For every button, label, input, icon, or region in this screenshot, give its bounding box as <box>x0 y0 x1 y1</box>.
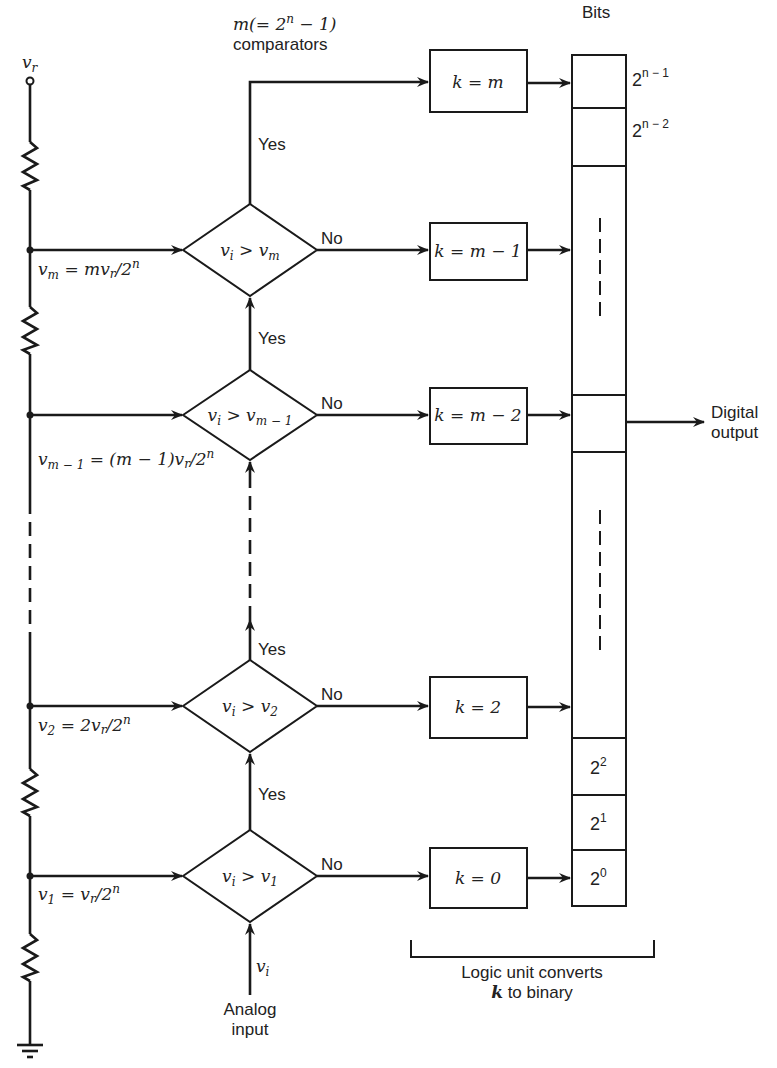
resistor-icon <box>23 307 37 354</box>
svg-text:k = m: k = m <box>452 72 503 92</box>
bits-label: Bits <box>582 3 610 22</box>
ground-icon <box>17 1045 43 1057</box>
comparator-v1-label: vi > v1 <box>222 866 278 889</box>
node-taps <box>30 250 182 876</box>
resistor-icon <box>23 934 37 981</box>
svg-text:input: input <box>232 1020 269 1039</box>
bit-label-2: 22 <box>590 755 607 778</box>
bit-label-msb: 2n − 1 <box>632 66 669 90</box>
no-label: No <box>321 394 343 413</box>
no-label: No <box>321 229 343 248</box>
svg-text:output: output <box>711 423 759 442</box>
comparators-label: comparators <box>233 35 327 54</box>
svg-text:Analog: Analog <box>224 1000 277 1019</box>
svg-text:k to binary: k to binary <box>491 982 573 1002</box>
node-label-v1: v1 = vr/2n <box>38 882 120 907</box>
comparator-vm1-label: vi > vm − 1 <box>208 405 293 428</box>
reference-label: vr <box>22 52 39 75</box>
bit-label-msb-1: 2n − 2 <box>632 117 669 141</box>
node-labels: vm = mvr/2n vm − 1 = (m − 1)vr/2n v2 = 2… <box>38 257 214 907</box>
svg-text:k = m − 1: k = m − 1 <box>434 241 521 261</box>
yes-label: Yes <box>258 640 286 659</box>
svg-text:k = m − 2: k = m − 2 <box>434 405 521 425</box>
svg-text:Digital: Digital <box>711 403 758 422</box>
comparator-v2-label: vi > v2 <box>222 696 278 719</box>
adc-diagram: vr vm = mvr/2n <box>0 0 777 1068</box>
reference-terminal-icon <box>27 78 34 85</box>
logic-boxes: k = m k = m − 1 k = m − 2 k = 2 k = 0 <box>430 50 570 908</box>
svg-text:k = 0: k = 0 <box>455 868 501 888</box>
comparators-count-label: m(= 2n − 1) <box>233 12 336 34</box>
resistor-icon <box>23 142 37 190</box>
yes-label: Yes <box>258 785 286 804</box>
logic-unit-bracket: Logic unit converts k to binary <box>411 940 654 1002</box>
input-symbol: vi <box>256 956 270 979</box>
bit-label-1: 21 <box>590 811 607 834</box>
svg-text:k = 2: k = 2 <box>455 697 501 717</box>
bit-register: 2n − 1 2n − 2 22 21 20 <box>572 55 669 906</box>
no-label: No <box>321 855 343 874</box>
no-label: No <box>321 685 343 704</box>
resistor-icon <box>23 769 37 816</box>
comparator-vm-label: vi > vm <box>220 240 280 263</box>
node-label-v2: v2 = 2vr/2n <box>38 713 131 738</box>
node-label-vm1: vm − 1 = (m − 1)vr/2n <box>38 447 214 472</box>
svg-text:Logic unit converts: Logic unit converts <box>461 963 603 982</box>
bit-label-0: 20 <box>590 866 607 889</box>
resistor-ladder: vr <box>17 52 43 1057</box>
node-label-vm: vm = mvr/2n <box>38 257 140 282</box>
yes-label: Yes <box>258 329 286 348</box>
digital-output: Digital output <box>626 403 759 442</box>
yes-label: Yes <box>258 135 286 154</box>
no-paths: No No No No <box>317 229 428 876</box>
